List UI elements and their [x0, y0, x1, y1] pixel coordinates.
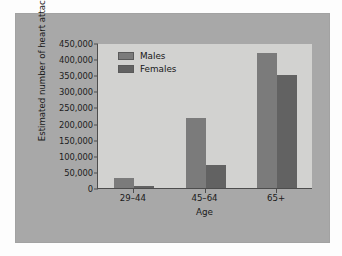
legend-swatch-females: [118, 65, 134, 73]
legend-swatch-males: [118, 52, 134, 60]
y-axis-tick-label: 450,000: [59, 39, 93, 49]
y-axis-tick-label: 150,000: [59, 136, 93, 146]
y-axis-tick-label: 0: [88, 184, 93, 194]
bar-group: [114, 178, 154, 188]
figure: Estimated number of heart attacks 050,00…: [0, 0, 342, 256]
bar-females-45-64: [206, 165, 226, 188]
bar-males-65+: [257, 53, 277, 188]
bar-males-45-64: [186, 118, 206, 188]
bar-females-29-44: [134, 186, 154, 188]
legend-item-females: Females: [118, 64, 176, 74]
legend-label: Females: [140, 64, 176, 74]
bar-females-65+: [277, 75, 297, 188]
y-axis-tick-label: 250,000: [59, 103, 93, 113]
y-axis-tick-label: 200,000: [59, 120, 93, 130]
bar-group: [186, 118, 226, 188]
y-axis-tick-label: 350,000: [59, 71, 93, 81]
chart-panel: Estimated number of heart attacks 050,00…: [15, 13, 330, 243]
y-axis-tick-label: 50,000: [64, 168, 93, 178]
y-axis-tick-labels: 050,000100,000150,000200,000250,000300,0…: [41, 37, 95, 197]
x-axis-tick-label: 29–44: [120, 193, 146, 203]
x-axis-tick-label: 45–64: [191, 193, 217, 203]
chart-legend: MalesFemales: [118, 51, 176, 77]
bar-males-29-44: [114, 178, 134, 188]
y-axis-tick-label: 300,000: [59, 87, 93, 97]
x-axis-title: Age: [97, 207, 312, 217]
x-axis-tick-label: 65+: [267, 193, 285, 203]
legend-item-males: Males: [118, 51, 176, 61]
y-axis-tick-label: 100,000: [59, 152, 93, 162]
bar-group: [257, 53, 297, 188]
y-axis-tick-label: 400,000: [59, 55, 93, 65]
legend-label: Males: [140, 51, 165, 61]
